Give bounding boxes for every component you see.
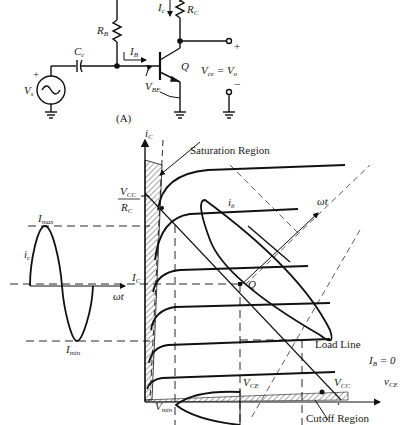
load-line <box>145 193 341 400</box>
ib-zero-label: IB = 0 <box>368 354 396 368</box>
rb-label: RB <box>96 24 109 38</box>
vce-tick-label: VCE <box>243 376 259 390</box>
load-line-label: Load Line <box>315 338 361 350</box>
imin-label: Imin <box>65 343 81 357</box>
q-point-marker <box>238 282 242 286</box>
vcc-over-rc-den: RC <box>120 201 133 215</box>
vcc-over-rc-num: VCC <box>120 185 136 199</box>
ground-icon-source <box>45 112 57 118</box>
ic-sine-waveform <box>30 226 93 341</box>
resistor-rc-icon <box>176 0 184 18</box>
circuit-caption: (A) <box>116 112 132 125</box>
cutoff-region-label: Cutoff Region <box>306 412 370 424</box>
ic-current-label: Ic <box>157 1 166 15</box>
saturation-region-label: Saturation Region <box>190 144 270 156</box>
transistor-label: Q <box>181 60 189 72</box>
source-plus: + <box>33 68 39 80</box>
vcc-tick-label: VCC <box>334 376 350 390</box>
ground-icon-emitter <box>174 112 186 118</box>
output-equation: Vce = Vo <box>201 64 238 78</box>
vs-label: Vs <box>24 84 34 98</box>
imax-label: Imax <box>37 212 54 226</box>
transistor-characteristics <box>10 140 380 425</box>
q-point-label: Q <box>248 278 256 290</box>
rc-label: RC <box>186 3 199 17</box>
omega-t-diagonal-label: ωt <box>317 195 329 207</box>
ic-waveform-label: ic <box>24 248 31 262</box>
vce-axis-label: vCE <box>384 375 399 389</box>
vbe-label: VBE <box>145 80 161 94</box>
output-plus: + <box>234 40 240 52</box>
ib-label: IB <box>129 45 139 59</box>
cc-label: Cc <box>74 45 85 59</box>
omega-t-label: ωt <box>113 290 125 302</box>
ground-icon-output <box>223 112 235 118</box>
ib-curve-label: ib <box>228 196 235 210</box>
output-minus: − <box>234 78 240 90</box>
circuit-schematic <box>37 0 235 118</box>
ic-level-label: IC <box>131 271 141 285</box>
ic-axis-label: iC <box>145 127 153 141</box>
resistor-rb-icon <box>113 20 121 42</box>
